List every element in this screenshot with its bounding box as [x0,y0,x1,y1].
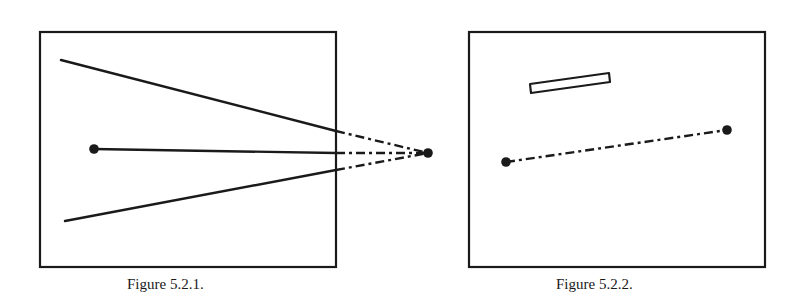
start-point-dot [89,144,99,154]
upper-dashed-extension [336,131,428,153]
figure-5-2-1 [40,32,433,267]
dashed-connecting-line [506,130,727,162]
upper-converging-line [61,60,336,131]
lower-converging-line [65,170,336,221]
lower-dashed-extension [336,153,428,170]
right-point-dot [722,125,732,135]
center-line [94,149,336,153]
vanishing-point-dot [423,148,433,158]
figure-2-frame [469,32,765,267]
obstacle-bar [530,73,610,93]
left-point-dot [501,157,511,167]
figure-5-2-2 [469,32,765,267]
figure-2-caption: Figure 5.2.2. [556,276,633,293]
figure-canvas [0,0,802,305]
figure-1-caption: Figure 5.2.1. [127,276,204,293]
